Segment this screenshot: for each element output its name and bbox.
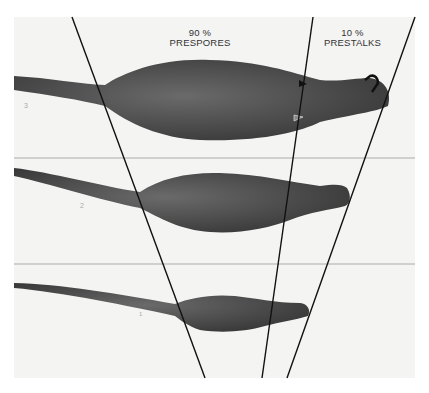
slug-medium (14, 168, 350, 232)
prespore-label: 90 % PRESPORES (160, 28, 240, 48)
prespore-name: PRESPORES (160, 38, 240, 48)
panel-mark-2: 2 (80, 202, 84, 209)
prestalk-label: 10 % PRESTALKS (320, 28, 385, 48)
slug-figure: 3 2 1 (0, 0, 429, 393)
slug-small (14, 283, 309, 332)
panel-mark-3: 3 (24, 102, 28, 109)
prestalk-name: PRESTALKS (320, 38, 385, 48)
slug-large (14, 60, 389, 140)
panel-mark-1: 1 (139, 311, 143, 317)
